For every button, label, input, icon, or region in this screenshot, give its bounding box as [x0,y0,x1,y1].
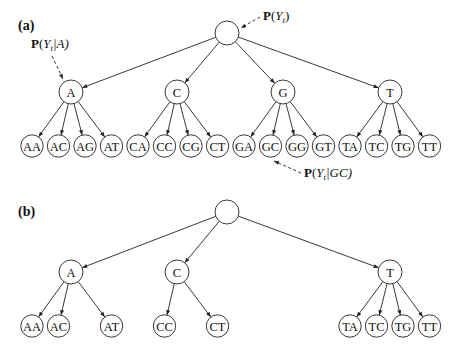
node-label: CC [156,320,173,334]
tree-edge [185,42,219,83]
node-label: GT [315,140,332,154]
annotation-arrow-root [241,17,260,28]
node-label: GG [288,140,306,154]
node-label: TC [369,320,385,334]
node-circle [215,200,239,224]
annotation-arrow-gc [274,161,301,173]
leaf-node-cc: CC [153,315,175,337]
tree-edge [238,37,378,88]
node-label: TA [342,320,358,334]
leaf-node-tg: TG [392,135,414,157]
node-label: GC [262,140,279,154]
annotation-arrow-a [52,56,63,79]
leaf-node-cg: CG [180,135,202,157]
tree-edge [357,102,383,137]
tree-edge [379,284,387,315]
tree-edge [61,104,68,135]
leaf-node-ac: AC [47,315,69,337]
leaf-node-ca: CA [127,135,149,157]
node-label: T [386,266,394,280]
leaf-node-aa: AA [21,135,43,157]
leaf-node-tt: TT [418,135,440,157]
node-c: C [165,80,189,104]
leaf-node-gg: GG [286,135,308,157]
node-label: TT [422,320,438,334]
node-label: TG [395,320,412,334]
tree-edge [393,104,401,135]
node-label: AT [104,320,120,334]
leaf-node-ac: AC [47,135,69,157]
node-label: AT [104,140,120,154]
node-label: CT [210,140,226,154]
leaf-node-ta: TA [339,135,361,157]
tree-edge [238,216,378,268]
tree-edge [39,282,64,317]
node-circle [215,21,239,45]
root-node [215,200,239,224]
leaf-node-tg: TG [392,315,414,337]
panel-label-a: (a) [18,18,35,34]
leaf-node-at: AT [100,315,122,337]
panel-label-b: (b) [18,204,35,220]
node-label: CA [129,140,146,154]
annotation-root: P(Yt) [263,8,289,25]
leaf-node-ta: TA [339,315,361,337]
node-label: AC [50,320,67,334]
tree-edge [61,284,68,315]
leaf-node-tt: TT [418,315,440,337]
node-label: G [278,86,287,100]
leaf-node-gc: GC [259,135,281,157]
tree-edge [145,102,170,137]
node-label: TG [395,140,412,154]
tree-panel-b: ACTAAACATCCCTTATCTGTT [21,200,441,337]
node-label: C [173,86,181,100]
tree-edge [185,221,220,263]
node-c: C [165,260,189,284]
tree-edge [273,104,280,135]
tree-edge [393,284,401,315]
leaf-node-tc: TC [365,315,387,337]
node-g: G [271,80,295,104]
leaf-node-ag: AG [74,135,96,157]
node-label: AA [23,140,41,154]
tree-edge [78,282,105,317]
node-t: T [378,80,402,104]
node-label: TC [369,140,385,154]
node-label: T [386,86,394,100]
leaf-node-at: AT [100,135,122,157]
tree-edge [180,104,188,136]
leaf-node-aa: AA [21,315,43,337]
tree-edge [397,102,423,137]
leaf-node-tc: TC [365,135,387,157]
annotation-gc: P(Yt|GC) [304,165,352,182]
node-label: CG [182,140,199,154]
tree-panel-a: ACGTAAACAGATCACCCGCTGAGCGGGTTATCTGTT [21,21,441,157]
tree-edge [82,216,216,267]
tree-edge [78,102,105,137]
node-label: CC [156,140,173,154]
node-label: AG [76,140,94,154]
root-node [215,21,239,45]
node-label: AC [50,140,67,154]
tree-edge [39,102,64,137]
node-label: GA [235,140,253,154]
leaf-node-ct: CT [206,135,228,157]
tree-edge [167,104,174,135]
tree-edge [167,284,174,315]
leaf-node-gt: GT [312,135,334,157]
node-label: AA [23,320,41,334]
tree-edge [251,102,276,137]
node-t: T [378,260,402,284]
tree-edge [184,282,211,317]
probability-tree-diagram: (a) (b) ACGTAAACAGATCACCCGCTGAGCGGGTTATC… [0,0,452,348]
tree-edge [82,37,216,88]
tree-edge [286,104,294,136]
node-a: A [59,260,83,284]
leaf-node-ct: CT [206,315,228,337]
leaf-node-cc: CC [153,135,175,157]
tree-edge [379,104,387,135]
tree-edge [184,102,211,137]
node-label: TA [342,140,358,154]
tree-edge [397,282,423,317]
tree-edge [290,102,317,137]
